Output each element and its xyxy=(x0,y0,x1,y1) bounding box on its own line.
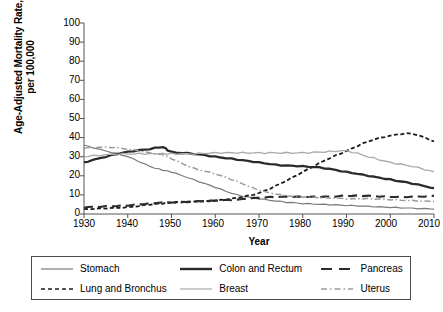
legend-line-breast-icon xyxy=(179,283,213,295)
legend-row-2: Lung and Bronchus Breast Uterus xyxy=(32,278,410,299)
axis-lines xyxy=(84,23,434,214)
legend-line-colon-and-rectum-icon xyxy=(179,263,213,275)
legend-label-colon-and-rectum: Colon and Rectum xyxy=(219,263,302,274)
legend-item-breast[interactable]: Breast xyxy=(179,278,320,299)
legend-label-lung-and-bronchus: Lung and Bronchus xyxy=(80,283,167,294)
data-series-group xyxy=(84,133,434,209)
legend-item-lung-and-bronchus[interactable]: Lung and Bronchus xyxy=(40,278,179,299)
legend-line-stomach-icon xyxy=(40,263,74,275)
legend-item-uterus[interactable]: Uterus xyxy=(320,278,410,299)
legend-label-breast: Breast xyxy=(219,283,248,294)
legend-row-1: Stomach Colon and Rectum Pancreas xyxy=(32,258,410,279)
legend-line-lung-and-bronchus-icon xyxy=(40,283,74,295)
y-axis-ticks xyxy=(80,23,84,214)
legend-item-stomach[interactable]: Stomach xyxy=(40,258,179,279)
legend-line-pancreas-icon xyxy=(320,263,354,275)
chart-figure: Age-Adjusted Mortality Rate, per 100,000… xyxy=(0,0,443,312)
x-axis-ticks xyxy=(84,214,434,218)
legend-line-uterus-icon xyxy=(320,283,354,295)
legend-item-pancreas[interactable]: Pancreas xyxy=(320,258,410,279)
legend-item-colon-and-rectum[interactable]: Colon and Rectum xyxy=(179,258,320,279)
legend-label-stomach: Stomach xyxy=(80,263,119,274)
legend-label-uterus: Uterus xyxy=(360,283,389,294)
chart-legend: Stomach Colon and Rectum Pancreas Lun xyxy=(31,256,411,300)
legend-label-pancreas: Pancreas xyxy=(360,263,402,274)
